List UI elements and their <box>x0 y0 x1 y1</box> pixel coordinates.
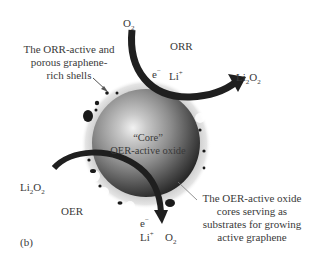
oer-arrowhead <box>154 210 168 224</box>
electron-bottom-label: e− <box>140 217 149 229</box>
shell-annotation-line: rich shells <box>14 69 124 82</box>
li2o2-product-label: Li2O2 <box>236 71 261 83</box>
shell-annotation: The ORR-active and porous graphene- rich… <box>14 43 124 82</box>
shell-annotation-line: The ORR-active and <box>14 43 124 56</box>
core-shell-diagram: The ORR-active and porous graphene- rich… <box>0 0 312 260</box>
li-ion-top-label: Li+ <box>169 70 183 82</box>
oxide-annotation-line: substrates for growing <box>196 218 308 231</box>
o2-bottom-label: O2 <box>165 231 176 243</box>
orr-label: ORR <box>170 40 193 52</box>
core-label-line: “Core” <box>100 131 196 144</box>
core-label-line: OER-active oxide <box>100 144 196 157</box>
li-ion-bottom-label: Li+ <box>140 231 154 243</box>
o2-top-label: O2 <box>123 17 134 29</box>
oer-label: OER <box>61 205 83 217</box>
li2o2-reactant-label: Li2O2 <box>20 181 45 193</box>
panel-label: (b) <box>20 236 33 248</box>
oxide-annotation-line: active graphene <box>196 231 308 244</box>
oxide-annotation: The OER-active oxide cores serving as su… <box>196 192 308 244</box>
shell-annotation-line: porous graphene- <box>14 56 124 69</box>
core-label: “Core” OER-active oxide <box>100 131 196 157</box>
oxide-annotation-line: cores serving as <box>196 205 308 218</box>
electron-top-label: e− <box>152 68 161 80</box>
oxide-annotation-line: The OER-active oxide <box>196 192 308 205</box>
